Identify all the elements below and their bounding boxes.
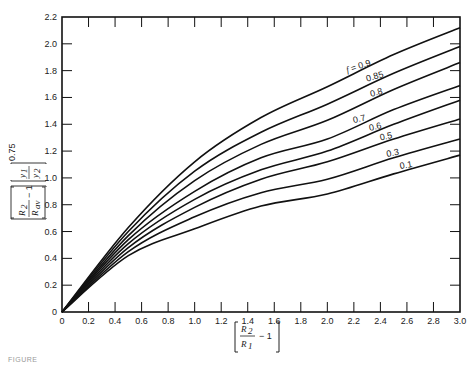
curve-label: 0.85 bbox=[365, 69, 385, 83]
figure-caption: FIGURE bbox=[8, 356, 37, 363]
svg-text:y: y bbox=[30, 174, 40, 179]
chart: 00.20.40.60.81.01.21.41.61.82.02.22.42.6… bbox=[0, 0, 476, 365]
x-tick-label: 2.0 bbox=[321, 316, 334, 326]
x-tick-label: 1.8 bbox=[295, 316, 308, 326]
curve-f-0.8 bbox=[62, 63, 460, 312]
x-tick-label: 2.2 bbox=[348, 316, 361, 326]
y-tick-label: 1.8 bbox=[44, 66, 57, 76]
svg-text:− 1: − 1 bbox=[259, 331, 272, 341]
y-tick-label: 1.4 bbox=[44, 119, 57, 129]
y-axis-label: R 2 R av − 1 y 1 y 2 0.75 bbox=[7, 143, 46, 219]
svg-text:− 1: − 1 bbox=[24, 185, 34, 198]
curve-label: 0.8 bbox=[369, 86, 384, 99]
svg-text:1: 1 bbox=[19, 169, 29, 174]
x-axis: 00.20.40.60.81.01.21.41.61.82.02.22.42.6… bbox=[59, 17, 466, 326]
svg-text:0.75: 0.75 bbox=[7, 143, 17, 161]
svg-text:2: 2 bbox=[248, 326, 253, 336]
y-tick-label: 2.2 bbox=[44, 12, 57, 22]
y-tick-label: 0.6 bbox=[44, 227, 57, 237]
y-tick-label: 1.6 bbox=[44, 92, 57, 102]
y-tick-label: 0.8 bbox=[44, 200, 57, 210]
curve-labels: f = 0.90.850.80.70.60.50.30.1 bbox=[345, 58, 413, 171]
x-tick-label: 1.2 bbox=[215, 316, 228, 326]
x-tick-label: 0.6 bbox=[135, 316, 148, 326]
svg-text:y: y bbox=[17, 174, 27, 179]
curve-f-0.7 bbox=[62, 85, 460, 312]
x-tick-label: 3.0 bbox=[454, 316, 467, 326]
x-tick-label: 0.8 bbox=[162, 316, 175, 326]
x-tick-label: 2.8 bbox=[427, 316, 440, 326]
svg-text:R: R bbox=[30, 210, 40, 217]
x-tick-label: 0 bbox=[59, 316, 64, 326]
x-tick-label: 2.4 bbox=[374, 316, 387, 326]
svg-text:av: av bbox=[32, 201, 42, 210]
svg-text:R: R bbox=[17, 210, 27, 217]
curve-label: 0.1 bbox=[399, 159, 413, 171]
svg-text:1: 1 bbox=[248, 341, 253, 351]
y-tick-label: 2.0 bbox=[44, 39, 57, 49]
svg-text:R: R bbox=[240, 324, 247, 334]
x-tick-label: 0.2 bbox=[82, 316, 95, 326]
x-axis-label: R 2 R 1 − 1 bbox=[235, 322, 279, 352]
x-tick-label: 2.6 bbox=[401, 316, 414, 326]
svg-text:2: 2 bbox=[19, 204, 29, 209]
y-tick-label: 0.2 bbox=[44, 280, 57, 290]
svg-text:2: 2 bbox=[32, 168, 42, 173]
x-tick-label: 0.4 bbox=[109, 316, 122, 326]
y-tick-label: 0 bbox=[52, 307, 57, 317]
curve-label: 0.6 bbox=[368, 120, 382, 133]
svg-text:R: R bbox=[240, 339, 247, 349]
y-tick-label: 1.2 bbox=[44, 146, 57, 156]
x-tick-label: 1.0 bbox=[188, 316, 201, 326]
y-tick-label: 0.4 bbox=[44, 253, 57, 263]
curve-f-0.5 bbox=[62, 119, 460, 312]
